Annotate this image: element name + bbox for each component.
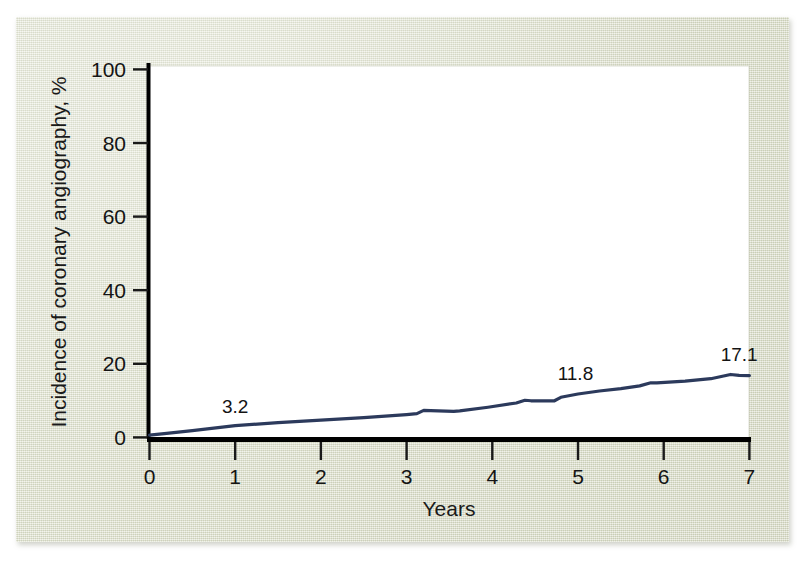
x-tick-label-2: 2 xyxy=(315,465,327,488)
y-axis-title: Incidence of coronary angiography, % xyxy=(47,77,70,428)
y-tick-label-0: 0 xyxy=(114,426,126,449)
x-tick-label-5: 5 xyxy=(572,465,584,488)
y-tick-label-100: 100 xyxy=(91,58,126,81)
figure-page: 100 80 60 40 20 0 Incidence of coronary … xyxy=(0,0,805,563)
x-tick-label-3: 3 xyxy=(401,465,413,488)
x-axis-title: Years xyxy=(423,497,476,520)
x-tick-label-4: 4 xyxy=(486,465,498,488)
y-tick-label-20: 20 xyxy=(103,352,126,375)
x-tick-label-0: 0 xyxy=(144,465,156,488)
y-tick-label-40: 40 xyxy=(103,279,126,302)
y-tick-label-60: 60 xyxy=(103,205,126,228)
x-tick-label-7: 7 xyxy=(744,465,756,488)
x-tick-label-1: 1 xyxy=(229,465,241,488)
x-tick-label-6: 6 xyxy=(658,465,670,488)
chart-svg: 100 80 60 40 20 0 Incidence of coronary … xyxy=(0,0,805,563)
data-label-17-1: 17.1 xyxy=(721,344,758,365)
y-axis: 100 80 60 40 20 0 Incidence of coronary … xyxy=(47,58,149,449)
y-tick-label-80: 80 xyxy=(103,132,126,155)
data-label-3-2: 3.2 xyxy=(222,396,248,417)
data-label-11-8: 11.8 xyxy=(558,363,594,384)
chart-figure: 100 80 60 40 20 0 Incidence of coronary … xyxy=(0,0,805,563)
x-axis: 0 1 2 3 4 5 6 7 Years xyxy=(144,440,756,521)
